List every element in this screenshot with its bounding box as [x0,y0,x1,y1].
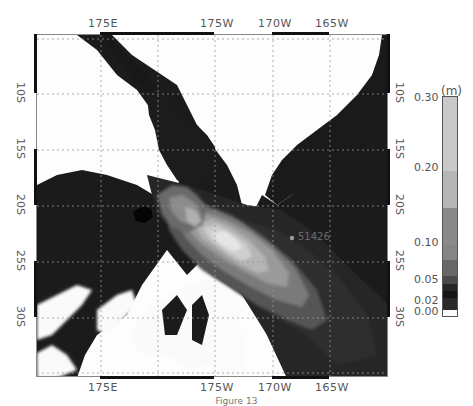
right-axis-bar [387,34,390,93]
bottom-tick-170w: 170W [258,381,292,394]
bottom-axis-bar [100,376,214,379]
bottom-tick-175e: 175E [88,381,118,394]
left-tick-25s: 25S [14,250,27,271]
top-tick-170w: 170W [258,17,292,30]
colorbar-label-0.00: 0.00 [414,305,425,318]
colorbar-band-0.01 [443,298,457,310]
colorbar [442,96,458,317]
colorbar-band-0.20 [443,171,457,208]
right-tick-25s: 25S [393,250,406,271]
figure-caption: Figure 13 [0,396,473,406]
left-tick-30s: 30S [14,306,27,327]
top-tick-175w: 175W [200,17,234,30]
bottom-axis-bar [272,376,329,379]
left-axis-bar [34,34,37,93]
colorbar-band-0.10 [443,245,457,260]
amplitude-contours [37,35,388,377]
right-tick-20s: 20S [393,194,406,215]
colorbar-band-0.00 [443,310,457,316]
colorbar-band-0.07 [443,260,457,276]
bottom-tick-175w: 175W [200,381,234,394]
top-axis-bar [272,32,329,35]
amplitude-map: 51426 [36,34,388,377]
top-tick-175e: 175E [88,17,118,30]
left-tick-10s: 10S [14,82,27,103]
station-marker-icon [290,236,294,240]
top-tick-165w: 165W [315,17,349,30]
colorbar-label-0.30: 0.30 [414,91,425,104]
left-tick-20s: 20S [14,194,27,215]
colorbar-band-0.15 [443,208,457,245]
colorbar-label-0.05: 0.05 [414,273,425,286]
right-tick-10s: 10S [393,82,406,103]
colorbar-band-0.03 [443,284,457,291]
top-axis-bar [100,32,214,35]
left-axis-bar [34,261,37,317]
colorbar-band-0.05 [443,276,457,284]
colorbar-band-0.30 [443,97,457,171]
right-tick-15s: 15S [393,138,406,159]
right-axis-bar [387,149,390,205]
bottom-tick-165w: 165W [315,381,349,394]
colorbar-label-0.20: 0.20 [414,161,425,174]
left-tick-15s: 15S [14,138,27,159]
colorbar-label-0.10: 0.10 [414,236,425,249]
station-label: 51426 [298,231,330,242]
right-tick-30s: 30S [393,306,406,327]
right-axis-bar [387,261,390,317]
left-axis-bar [34,149,37,205]
colorbar-band-0.02 [443,291,457,298]
